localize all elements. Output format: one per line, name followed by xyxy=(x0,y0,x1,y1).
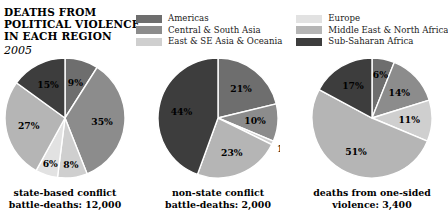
pie-slice-label: 6% xyxy=(373,69,388,80)
caption-line-1: state-based conflict xyxy=(0,187,135,198)
legend-column-left: Americas Central & South Asia East & SE … xyxy=(136,14,282,46)
page-title: DEATHS FROM POLITICAL VIOLENCE IN EACH R… xyxy=(4,6,132,58)
caption-line-2: battle-deaths: 12,000 xyxy=(0,199,135,210)
pie-slice-label: 9% xyxy=(68,77,83,88)
pie-slice-label: 27% xyxy=(18,120,40,131)
legend-label-central-south-asia: Central & South Asia xyxy=(168,26,261,35)
pie-svg-one-sided-violence: 6%14%11%51%17% xyxy=(310,56,434,180)
legend-swatch-sub-saharan-africa xyxy=(296,38,322,46)
pie-slice-label: 15% xyxy=(37,79,59,90)
legend-swatch-europe xyxy=(296,15,322,23)
pie-svg-non-state-conflict: 21%10%1%23%44% xyxy=(156,56,280,180)
legend-item-americas: Americas xyxy=(136,14,282,23)
legend-item-middle-east-north-africa: Middle East & North Africa xyxy=(296,26,448,35)
pie-chart-one-sided-violence: 6%14%11%51%17% deaths from one-sided vio… xyxy=(302,56,442,211)
pie-caption-state-based-conflict: state-based conflict battle-deaths: 12,0… xyxy=(0,187,135,210)
legend-item-central-south-asia: Central & South Asia xyxy=(136,26,282,35)
pie-chart-non-state-conflict: 21%10%1%23%44% non-state conflict battle… xyxy=(148,56,288,211)
pie-chart-state-based-conflict: 9%35%8%6%27%15% state-based conflict bat… xyxy=(0,56,135,211)
pie-caption-non-state-conflict: non-state conflict battle-deaths: 2,000 xyxy=(148,187,288,210)
pie-slice-label: 8% xyxy=(63,159,78,170)
pie-slice-label: 11% xyxy=(398,114,420,125)
legend-swatch-east-se-asia-oceania xyxy=(136,38,162,46)
legend-item-europe: Europe xyxy=(296,14,448,23)
title-line-1: DEATHS FROM xyxy=(4,6,132,18)
legend-label-europe: Europe xyxy=(328,14,360,23)
caption-line-1: deaths from one-sided xyxy=(302,187,442,198)
pie-slice-label: 44% xyxy=(171,106,193,117)
pie-slice-label: 17% xyxy=(342,80,364,91)
pie-slice-label: 23% xyxy=(221,147,243,158)
caption-line-2: violence: 3,400 xyxy=(302,199,442,210)
caption-line-1: non-state conflict xyxy=(148,187,288,198)
pie-slice-label: 51% xyxy=(345,146,367,157)
pie-slice-label: 35% xyxy=(91,116,113,127)
title-line-3: IN EACH REGION xyxy=(4,30,132,42)
legend-swatch-americas xyxy=(136,15,162,23)
legend: Americas Central & South Asia East & SE … xyxy=(136,14,448,46)
pie-slice-label: 1% xyxy=(277,143,280,154)
legend-label-sub-saharan-africa: Sub-Saharan Africa xyxy=(328,37,413,46)
legend-column-right: Europe Middle East & North Africa Sub-Sa… xyxy=(296,14,448,46)
pie-slice-label: 6% xyxy=(43,158,58,169)
pie-slice-label: 21% xyxy=(230,83,252,94)
legend-item-sub-saharan-africa: Sub-Saharan Africa xyxy=(296,37,448,46)
legend-item-east-se-asia-oceania: East & SE Asia & Oceania xyxy=(136,37,282,46)
title-line-2: POLITICAL VIOLENCE xyxy=(4,18,132,30)
legend-swatch-central-south-asia xyxy=(136,26,162,34)
pie-chart-group: 9%35%8%6%27%15% state-based conflict bat… xyxy=(0,56,442,211)
legend-swatch-middle-east-north-africa xyxy=(296,26,322,34)
legend-label-middle-east-north-africa: Middle East & North Africa xyxy=(328,26,448,35)
legend-label-americas: Americas xyxy=(168,14,209,23)
pie-slice-label: 10% xyxy=(244,115,266,126)
pie-slice-label: 14% xyxy=(389,87,411,98)
caption-line-2: battle-deaths: 2,000 xyxy=(148,199,288,210)
pie-svg-state-based-conflict: 9%35%8%6%27%15% xyxy=(3,56,127,180)
legend-label-east-se-asia-oceania: East & SE Asia & Oceania xyxy=(168,37,282,46)
pie-caption-one-sided-violence: deaths from one-sided violence: 3,400 xyxy=(302,187,442,210)
